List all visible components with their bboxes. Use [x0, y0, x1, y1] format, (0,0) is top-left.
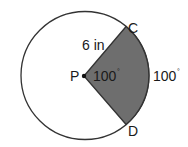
- label-point-d: D: [128, 123, 138, 139]
- central-angle-degree: °: [117, 68, 120, 75]
- label-radius: 6 in: [82, 37, 105, 53]
- label-arc-measure: 100: [153, 68, 177, 84]
- center-point: [82, 74, 86, 78]
- arc-measure-degree: °: [177, 68, 180, 75]
- label-center-p: P: [70, 68, 79, 84]
- circle-diagram: P C D 6 in 100 ° 100 °: [0, 0, 188, 147]
- label-point-c: C: [128, 20, 138, 36]
- label-central-angle: 100: [93, 68, 117, 84]
